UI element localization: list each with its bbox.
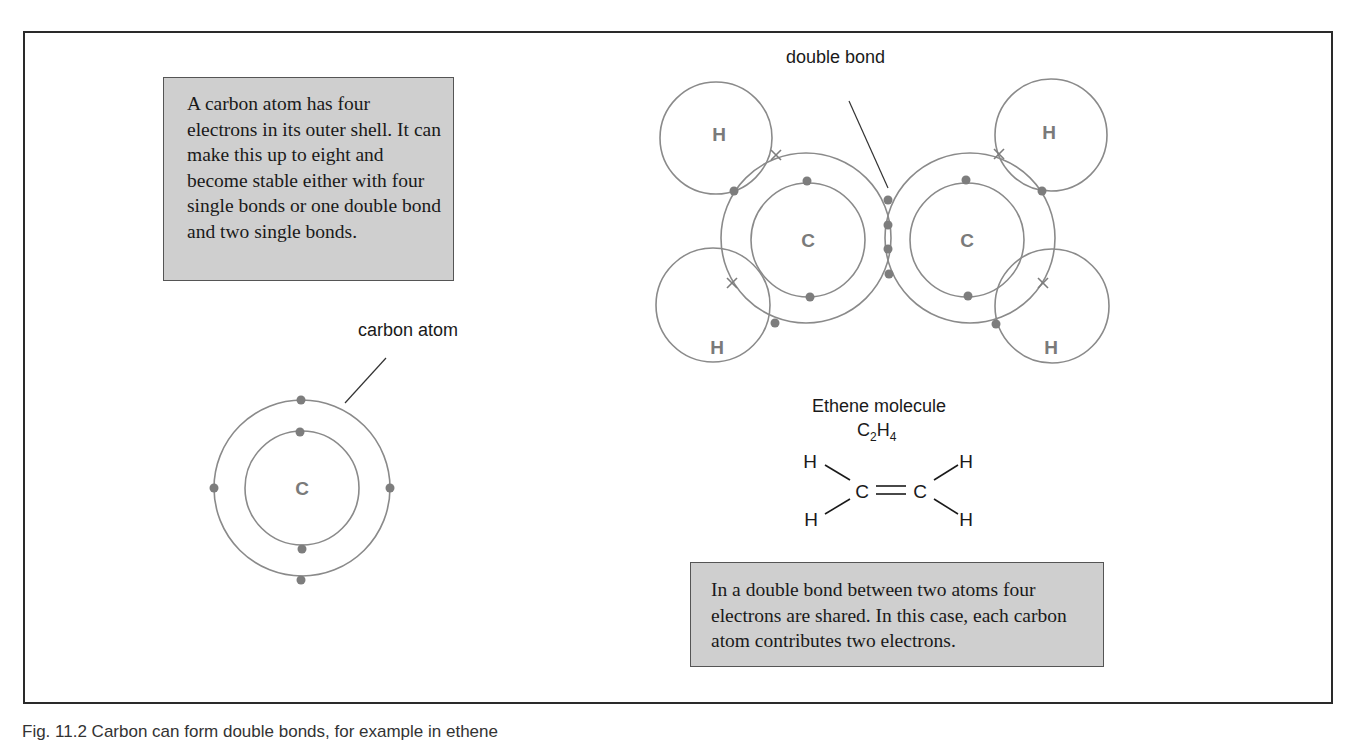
electron-dot xyxy=(1038,187,1047,196)
electron-dot xyxy=(210,484,219,493)
formula-c-right: C xyxy=(913,481,927,502)
carbon-atom-leader-line xyxy=(345,358,386,403)
electron-dot xyxy=(964,292,973,301)
electron-dot xyxy=(962,176,971,185)
carbon-symbol: C xyxy=(295,478,309,499)
hydrogen-top-left-symbol: H xyxy=(712,124,726,145)
structural-formula: H H C C H H xyxy=(803,451,973,530)
electron-dot xyxy=(730,187,739,196)
formula-h-top-right: H xyxy=(959,451,973,472)
formula-h-bottom-left: H xyxy=(804,509,818,530)
formula-c-left: C xyxy=(855,481,869,502)
electron-dot xyxy=(297,396,306,405)
bond-line xyxy=(934,499,958,514)
electron-dot xyxy=(803,177,812,186)
shared-electron-dot xyxy=(885,270,894,279)
hydrogen-bottom-right-symbol: H xyxy=(1044,337,1058,358)
carbon-left-symbol: C xyxy=(801,230,815,251)
bond-line xyxy=(934,465,958,480)
shared-electron-dot xyxy=(884,221,893,230)
shared-electron-dot xyxy=(884,245,893,254)
bond-line xyxy=(825,465,850,480)
bond-line xyxy=(825,499,850,514)
hydrogen-top-right-symbol: H xyxy=(1042,122,1056,143)
electron-dot xyxy=(386,484,395,493)
carbon-right-symbol: C xyxy=(960,230,974,251)
electron-dot xyxy=(806,293,815,302)
hydrogen-bottom-left-symbol: H xyxy=(710,337,724,358)
double-bond-leader-line xyxy=(849,101,888,188)
electron-dot xyxy=(298,545,307,554)
electron-dot xyxy=(992,320,1001,329)
electron-dot xyxy=(297,576,306,585)
electron-dot xyxy=(296,428,305,437)
shared-electron-dot xyxy=(884,196,893,205)
electron-dot xyxy=(771,319,780,328)
h-electron-cross-icon xyxy=(1038,278,1048,288)
formula-h-bottom-right: H xyxy=(959,509,973,530)
formula-h-top-left: H xyxy=(803,451,817,472)
